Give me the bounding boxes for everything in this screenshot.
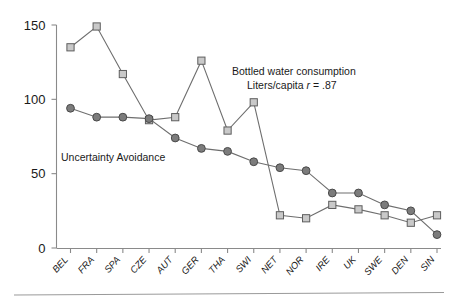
bottled-water-annotation-line2: Liters/capita r = .87 [247, 79, 337, 91]
data-point-uncertainty-avoidance-aut [171, 134, 179, 142]
y-axis-tick-labels: 050100150 [24, 18, 46, 256]
data-point-bottled-water-aut [172, 114, 179, 121]
x-tick-label-net: NET [259, 253, 281, 275]
data-point-uncertainty-avoidance-den [407, 207, 415, 215]
data-point-bottled-water-nor [303, 215, 310, 222]
x-tick-label-tha: THA [206, 254, 227, 275]
y-tick-label: 0 [38, 241, 45, 256]
data-point-bottled-water-fra [93, 23, 100, 30]
y-axis-ticks [52, 25, 57, 248]
x-tick-label-aut: AUT [153, 253, 175, 276]
chart-figure: 050100150 BELFRASPACZEAUTGERTHASWINETNOR… [0, 0, 454, 306]
data-point-uncertainty-avoidance-swi [250, 158, 258, 166]
series-line-bottled-water [71, 26, 438, 222]
x-tick-label-uk: UK [341, 253, 358, 271]
data-point-bottled-water-uk [355, 206, 362, 213]
data-point-uncertainty-avoidance-ire [328, 189, 336, 197]
x-tick-label-den: DEN [389, 254, 411, 276]
x-tick-label-fra: FRA [75, 254, 96, 275]
data-point-bottled-water-net [276, 212, 283, 219]
x-tick-label-swi: SWI [233, 254, 253, 275]
y-tick-label: 150 [24, 18, 46, 33]
correlation-value: = .87 [310, 79, 337, 91]
bottled-water-annotation-line2-text: Liters/capita [247, 79, 307, 91]
uncertainty-avoidance-annotation: Uncertainty Avoidance [61, 151, 165, 163]
data-point-uncertainty-avoidance-bel [67, 104, 75, 112]
y-tick-label: 100 [24, 92, 46, 107]
x-axis-tick-labels: BELFRASPACZEAUTGERTHASWINETNORIREUKSWEDE… [50, 253, 437, 277]
x-tick-label-ger: GER [179, 254, 201, 277]
data-point-uncertainty-avoidance-cze [145, 115, 153, 123]
x-tick-label-cze: CZE [128, 253, 149, 275]
x-tick-label-ire: IRE [313, 253, 332, 273]
data-point-uncertainty-avoidance-tha [224, 147, 232, 155]
data-point-bottled-water-swi [250, 99, 257, 106]
data-point-uncertainty-avoidance-ger [197, 144, 205, 152]
chart-plot-area: 050100150 BELFRASPACZEAUTGERTHASWINETNOR… [0, 0, 454, 306]
data-point-uncertainty-avoidance-fra [93, 113, 101, 121]
x-tick-label-nor: NOR [283, 254, 305, 277]
data-point-uncertainty-avoidance-uk [355, 189, 363, 197]
data-point-bottled-water-swe [381, 212, 388, 219]
footer-divider-rule [14, 293, 444, 296]
data-point-uncertainty-avoidance-nor [302, 167, 310, 175]
data-point-uncertainty-avoidance-net [276, 164, 284, 172]
bottled-water-annotation-line1: Bottled water consumption [232, 65, 356, 77]
data-point-bottled-water-ire [329, 201, 336, 208]
data-point-bottled-water-ger [198, 57, 205, 64]
data-point-uncertainty-avoidance-swe [381, 201, 389, 209]
x-tick-label-sin: SIN [418, 254, 437, 273]
x-tick-label-swe: SWE [361, 253, 384, 277]
data-point-uncertainty-avoidance-spa [119, 113, 127, 121]
data-point-bottled-water-spa [119, 70, 126, 77]
data-point-bottled-water-tha [224, 127, 231, 134]
data-point-bottled-water-sin [433, 212, 440, 219]
x-tick-label-spa: SPA [102, 254, 122, 275]
data-point-bottled-water-bel [67, 44, 74, 51]
x-tick-label-bel: BEL [50, 254, 70, 275]
data-point-bottled-water-den [407, 219, 414, 226]
data-point-uncertainty-avoidance-sin [433, 231, 441, 239]
chart-series-markers [67, 23, 441, 239]
y-tick-label: 50 [31, 166, 45, 181]
